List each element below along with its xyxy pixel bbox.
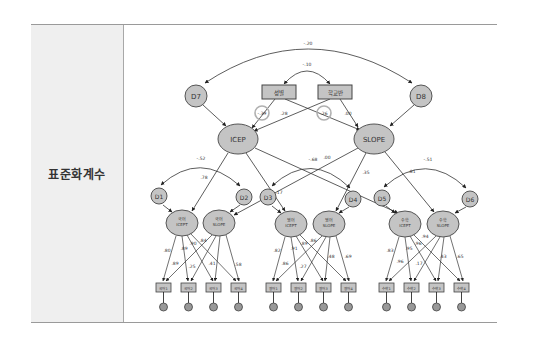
diagram-label: .86 [281,261,288,266]
diagram-label: .86 [309,238,316,243]
diagram-label: D4 [349,196,358,203]
node-d4: D4 [345,191,361,207]
diagram-label: .82 [273,248,280,253]
diagram-label: .41 [208,261,215,266]
diagram-label: SLOPE [213,222,226,227]
indicator-kor2: 국어2 [181,283,196,311]
node-gender: 성별 [262,85,296,99]
indicator-math1: 수학1 [379,283,394,311]
diagram-label: .00 [323,155,330,160]
coefficient-labels: -.20 -.10 -.39 .28 .26 .00 -.52 .78 -.68… [163,41,463,269]
diagram-label: .69 [344,254,351,259]
diagram-label: .65 [456,254,463,259]
node-d7: D7 [185,85,207,107]
diagram-label: .58 [234,262,241,267]
diagram-label: 학교반 [328,89,343,97]
diagram-label: 영어1 [269,286,277,291]
diagram-label: -.20 [304,41,313,46]
diagram-label: .17 [415,261,422,266]
cov-arc-gender-school [284,71,330,84]
diagram-label: 영어3 [319,286,327,291]
diagram-label: 수학2 [407,286,415,291]
diagram-label: SLOPE [323,223,336,228]
diagram-label: .35 [362,170,369,175]
diagram-label: ICEPT [399,223,411,228]
diagram-label: .96 [396,259,403,264]
diagram-label: .84 [199,238,206,243]
diagram-label: 성별 [274,89,284,96]
diagram-label: .94 [421,234,428,239]
indicator-math3: 수학3 [429,283,444,311]
indicator-kor3: 국어3 [206,283,221,311]
node-d2: D2 [236,189,252,205]
diagram-label: .89 [171,261,178,266]
node-d6: D6 [462,191,478,207]
diagram-label: D2 [240,194,249,201]
node-d8: D8 [410,85,432,107]
diagram-label: 국어1 [159,286,167,291]
diagram-label: .27 [299,264,306,269]
diagram-label: SLOPE [363,136,385,144]
indicator-eng1: 영어1 [266,283,281,311]
diagram-label: -.52 [197,156,206,161]
node-kor-slope: 국어SLOPE [203,210,235,236]
diagram-label: 국어4 [234,286,243,291]
diagram-label: .89 [300,241,307,246]
cov-arc-d3-d4 [272,168,350,188]
diagram-label: -.68 [309,157,318,162]
node-d3: D3 [260,189,276,205]
node-slope: SLOPE [354,124,394,154]
diagram-label: SLOPE [437,223,450,228]
node-icep: ICEP [218,124,258,154]
diagram-label: D3 [264,194,273,201]
diagram-label: -.10 [303,62,312,67]
diagram-label: -.39 [258,111,267,116]
node-eng-icept: 영어ICEPT [275,211,307,237]
diagram-label: D7 [191,93,201,101]
diagram-label: D1 [155,193,164,200]
diagram-label: D5 [378,195,387,202]
diagram-label: 수학4 [457,286,466,291]
diagram-label: D8 [416,93,426,101]
diagram-label: .81 [408,169,415,174]
diagram-label: 영어2 [294,286,302,291]
indicator-math2: 수학2 [404,283,419,311]
diagram-label: .91 [290,246,297,251]
diagram-label: .48 [327,254,334,259]
node-math-icept: 수학ICEPT [389,211,421,237]
node-eng-slope: 영어SLOPE [313,211,345,237]
diagram-label: .80 [163,248,170,253]
diagram-label: .89 [180,246,187,251]
indicator-row: 국어1 국어2 국어3 국어4 영어1 영어2 영어3 영어4 수학1 수학2 … [156,283,469,311]
diagram-label: .95 [405,246,412,251]
loadings-math [386,234,463,281]
diagram-label: ICEPT [176,222,188,227]
indicator-kor1: 국어1 [156,283,171,311]
node-school: 학교반 [318,85,352,99]
node-kor-icept: 국어ICEPT [166,210,198,236]
indicator-kor4: 국어4 [231,283,246,311]
indicator-eng3: 영어3 [316,283,331,311]
diagram-label: D6 [466,196,475,203]
diagram-label: .28 [280,111,287,116]
diagram-label: 영어4 [344,286,353,291]
indicator-eng4: 영어4 [341,283,356,311]
sem-path-diagram: D7 D8 성별 학교반 ICEP SLOPE D1 D2 D3 D4 D5 D… [0,0,543,346]
node-math-slope: 수학SLOPE [427,211,459,237]
diagram-label: .78 [200,175,207,180]
diagram-label: 국어3 [209,286,217,291]
diagram-label: .00 [344,111,351,116]
indicator-math4: 수학4 [454,283,469,311]
diagram-label: .90 [189,241,196,246]
diagram-label: .26 [320,111,327,116]
diagram-label: ICEPT [285,223,297,228]
diagram-label: 수학1 [382,286,390,291]
node-d5: D5 [374,190,390,206]
node-d1: D1 [151,188,167,204]
diagram-label: .96 [414,241,421,246]
diagram-label: .25 [188,264,195,269]
diagram-label: .17 [275,190,282,195]
diagram-label: -.51 [424,157,433,162]
diagram-label: .43 [439,254,446,259]
indicator-eng2: 영어2 [291,283,306,311]
